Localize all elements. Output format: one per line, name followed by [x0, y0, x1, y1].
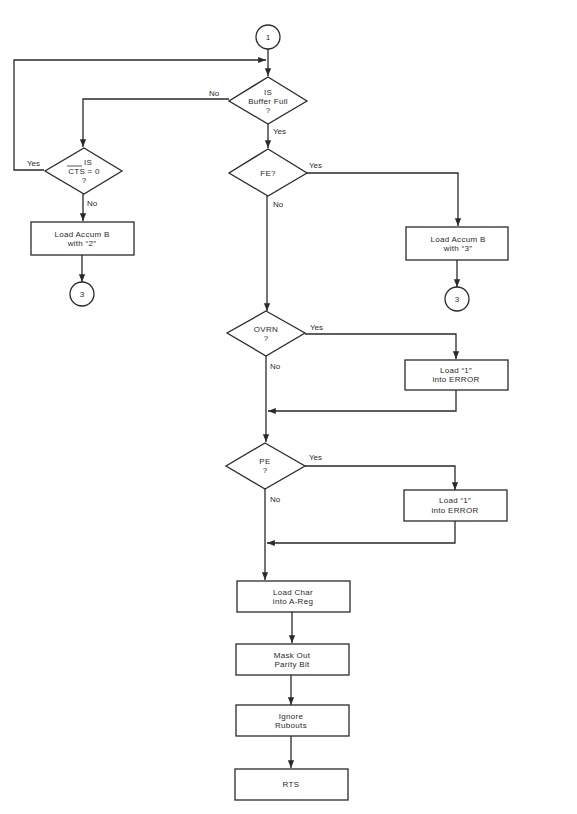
edge-cts-yes-loop — [14, 60, 266, 170]
edge-label-fe-no: No — [273, 200, 284, 209]
decision-text: OVRN — [254, 325, 278, 334]
process-load-1-into-error-ovrn: Load “1” into ERROR — [405, 360, 508, 390]
process-mask-parity: Mask Out Parity Bit — [236, 644, 349, 675]
end-connector-label: 3 — [80, 290, 85, 299]
edge-label-fe-yes: Yes — [309, 161, 322, 170]
edge-fe-yes — [307, 173, 458, 226]
end-connector-right: 3 — [445, 287, 469, 311]
edge-err1-merge — [268, 390, 456, 411]
process-load-1-into-error-pe: Load “1” into ERROR — [404, 490, 507, 521]
decision-text: ? — [263, 466, 268, 475]
edge-buffer-no — [83, 99, 229, 147]
process-text: Parity Bit — [274, 660, 309, 669]
process-load-accum-b-3: Load Accum B with “3” — [406, 227, 508, 260]
edge-ovrn-yes — [305, 334, 456, 359]
process-text: Load Char — [273, 588, 313, 597]
process-text: Load “1” — [440, 366, 472, 375]
decision-pe: PE ? — [226, 443, 305, 489]
edge-label-buffer-yes: Yes — [273, 127, 286, 136]
process-text: with “2” — [67, 239, 97, 248]
start-connector-label: 1 — [266, 33, 271, 42]
edge-label-pe-no: No — [270, 495, 281, 504]
process-text: RTS — [283, 780, 300, 789]
decision-text: Buffer Full — [248, 97, 288, 106]
process-text: Load Accum B — [54, 230, 109, 239]
process-text: Ignore — [279, 712, 304, 721]
flowchart: 1 IS Buffer Full ? No Yes IS CTS = 0 ? Y… — [0, 0, 577, 814]
decision-fe: FE? — [229, 149, 307, 196]
decision-cts: IS CTS = 0 ? — [45, 148, 122, 194]
process-text: Load Accum B — [430, 235, 485, 244]
decision-text: ? — [82, 176, 87, 185]
process-text: into ERROR — [432, 375, 479, 384]
edge-label-ovrn-no: No — [270, 362, 281, 371]
process-text: Rubouts — [275, 721, 307, 730]
decision-text: CTS = 0 — [68, 167, 100, 176]
process-text: Load “1” — [439, 496, 471, 505]
end-connector-label: 3 — [455, 295, 460, 304]
edge-label-ovrn-yes: Yes — [310, 323, 323, 332]
decision-text: IS — [84, 158, 92, 167]
decision-text: FE? — [260, 169, 276, 178]
start-connector: 1 — [256, 25, 280, 49]
decision-text: PE — [259, 457, 270, 466]
edge-err2-merge — [267, 521, 455, 543]
process-load-accum-b-2: Load Accum B with “2” — [31, 222, 134, 255]
process-ignore-rubouts: Ignore Rubouts — [236, 705, 349, 736]
edge-pe-yes — [305, 466, 455, 490]
process-rts: RTS — [235, 769, 348, 800]
process-load-char: Load Char into A-Reg — [237, 581, 350, 612]
decision-text: ? — [266, 106, 271, 115]
process-text: Mask Out — [274, 651, 311, 660]
decision-buffer-full: IS Buffer Full ? — [229, 77, 307, 124]
edge-label-cts-yes: Yes — [27, 159, 40, 168]
edge-label-buffer-no: No — [209, 89, 220, 98]
end-connector-left: 3 — [70, 282, 94, 306]
edge-label-pe-yes: Yes — [309, 453, 322, 462]
process-text: into A-Reg — [273, 597, 313, 606]
process-text: into ERROR — [431, 506, 478, 515]
decision-text: ? — [264, 334, 269, 343]
process-text: with “3” — [443, 244, 473, 253]
edge-label-cts-no: No — [87, 199, 98, 208]
decision-ovrn: OVRN ? — [227, 311, 305, 356]
decision-text: IS — [264, 88, 272, 97]
